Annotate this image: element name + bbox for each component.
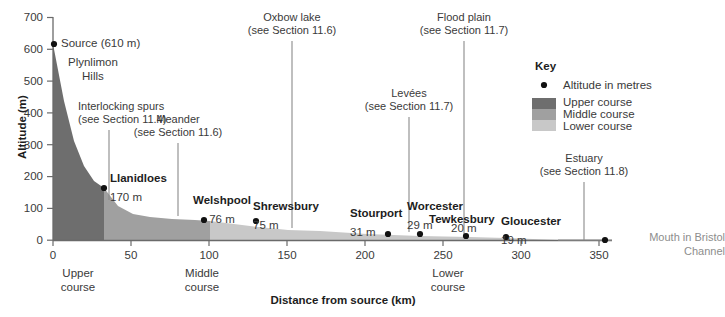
annotation-estuary-line2: (see Section 11.8)	[540, 165, 628, 177]
x-axis-title: Distance from source (km)	[228, 294, 458, 306]
annotation-interlocking-spurs-line1: Interlocking spurs	[78, 100, 164, 112]
city-altitude-llanidloes: 170 m	[110, 191, 142, 203]
annotation-levees-line1: Levées	[391, 87, 426, 99]
course-label-upper: Upper course	[38, 267, 118, 295]
annotation-flood-plain-line1: Flood plain	[437, 11, 491, 23]
legend-point-marker	[541, 82, 547, 88]
annotation-oxbow-lake: Oxbow lake (see Section 11.6)	[232, 11, 352, 37]
y-tick-label-300: 300	[9, 139, 43, 153]
legend-entry-altitude-label: Altitude in metres	[563, 79, 652, 93]
y-tick-label-700: 700	[9, 11, 43, 25]
x-tick-label-250: 250	[423, 249, 463, 263]
annotation-plynlimon-hills-line1: Plynlimon	[68, 56, 118, 68]
annotation-estuary-line1: Estuary	[565, 152, 602, 164]
y-tick-label-500: 500	[9, 75, 43, 89]
annotation-levees: Levées (see Section 11.7)	[349, 87, 469, 113]
annotation-flood-plain: Flood plain (see Section 11.7)	[404, 11, 524, 37]
course-label-middle: Middle course	[162, 267, 242, 295]
x-tick-label-350: 350	[579, 249, 619, 263]
annotation-meander-line1: Meander	[156, 113, 199, 125]
y-tick-label-400: 400	[9, 107, 43, 121]
mouth-label-line1: Mouth in Bristol	[649, 231, 725, 243]
x-tick-label-50: 50	[111, 249, 151, 263]
course-label-lower-line2: course	[431, 281, 466, 293]
city-altitude-welshpool: 76 m	[209, 213, 235, 225]
city-label-gloucester: Gloucester 19 m	[501, 211, 561, 249]
annotation-oxbow-lake-line1: Oxbow lake	[263, 11, 320, 23]
x-tick-label-150: 150	[267, 249, 307, 263]
legend-swatch-middle-course	[532, 109, 556, 120]
course-label-lower-line1: Lower	[432, 267, 463, 279]
y-tick-label-200: 200	[9, 170, 43, 184]
x-tick-label-0: 0	[33, 249, 73, 263]
y-tick-label-0: 0	[9, 234, 43, 248]
city-name-shrewsbury: Shrewsbury	[253, 200, 319, 212]
x-tick-label-300: 300	[501, 249, 541, 263]
y-tick-label-100: 100	[9, 202, 43, 216]
x-tick-label-100: 100	[189, 249, 229, 263]
city-label-stourport: Stourport 31 m	[350, 203, 402, 241]
legend-swatch-upper-course	[532, 98, 556, 109]
course-label-upper-line2: course	[61, 281, 96, 293]
mouth-label-line2: Channel	[684, 245, 725, 257]
city-name-stourport: Stourport	[350, 207, 402, 219]
annotation-levees-line2: (see Section 11.7)	[365, 100, 453, 112]
data-point-mouth	[602, 237, 608, 243]
city-altitude-shrewsbury: 75 m	[253, 219, 279, 231]
legend-title: Key	[535, 60, 556, 74]
city-altitude-stourport: 31 m	[350, 226, 376, 238]
course-label-lower: Lower course	[408, 267, 488, 295]
course-label-upper-line1: Upper	[62, 267, 93, 279]
city-label-llanidloes: Llanidloes 170 m	[110, 168, 167, 206]
city-label-shrewsbury: Shrewsbury 75 m	[253, 196, 319, 234]
annotation-meander-line2: (see Section 11.6)	[134, 126, 222, 138]
annotation-source: Source (610 m)	[61, 37, 140, 51]
city-name-gloucester: Gloucester	[501, 215, 561, 227]
course-label-middle-line2: course	[185, 281, 220, 293]
mouth-label: Mouth in Bristol Channel	[615, 231, 725, 259]
y-axis-ticks	[47, 18, 53, 241]
annotation-oxbow-lake-line2: (see Section 11.6)	[248, 24, 336, 36]
data-point-source	[51, 41, 57, 47]
data-point-llanidloes	[101, 185, 107, 191]
annotation-plynlimon-hills-line2: Hills	[82, 70, 104, 82]
annotation-flood-plain-line2: (see Section 11.7)	[420, 24, 508, 36]
city-name-welshpool: Welshpool	[193, 194, 251, 206]
city-name-llanidloes: Llanidloes	[110, 172, 167, 184]
legend-entry-lower-course: Lower course	[563, 120, 632, 134]
annotation-estuary: Estuary (see Section 11.8)	[524, 152, 644, 178]
annotation-plynlimon-hills: Plynlimon Hills	[68, 56, 118, 84]
city-altitude-gloucester: 19 m	[501, 234, 527, 246]
y-tick-label-600: 600	[9, 43, 43, 57]
annotation-meander: Meander (see Section 11.6)	[118, 113, 238, 139]
course-label-middle-line1: Middle	[185, 267, 219, 279]
city-label-welshpool: Welshpool 76 m	[187, 190, 257, 228]
legend-swatch-lower-course	[532, 120, 556, 131]
city-altitude-tewkesbury: 20 m	[451, 222, 477, 236]
x-tick-label-200: 200	[345, 249, 385, 263]
